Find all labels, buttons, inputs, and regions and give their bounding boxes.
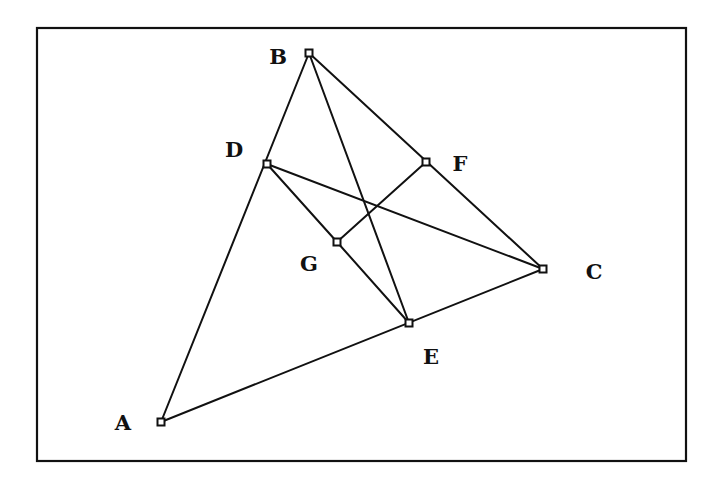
point-label-a: A [114,410,132,435]
point-marker-g [334,239,341,246]
point-label-g: G [300,251,318,276]
point-label-f: F [453,151,468,176]
segment-be [309,53,409,323]
points-group [158,50,547,426]
segment-ac [161,269,543,422]
point-marker-f [423,159,430,166]
point-label-c: C [586,259,603,284]
segments-group [161,53,543,422]
point-label-e: E [423,344,439,369]
point-marker-e [406,320,413,327]
segment-ab [161,53,309,422]
point-marker-c [540,266,547,273]
point-marker-b [306,50,313,57]
point-marker-a [158,419,165,426]
point-label-b: B [269,44,287,69]
point-label-d: D [225,137,243,162]
segment-ge [337,242,409,323]
point-marker-d [264,161,271,168]
segment-dg [267,164,337,242]
labels-group: ABCDEFG [114,44,603,435]
segment-gf [337,162,426,242]
geometry-diagram: ABCDEFG [0,0,722,483]
diagram-frame [37,28,686,461]
